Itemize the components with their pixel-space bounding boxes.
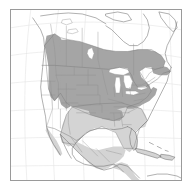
range-map-figure xyxy=(0,0,192,196)
lake-michigan xyxy=(115,77,121,93)
map-frame xyxy=(10,9,182,181)
map-canvas xyxy=(11,10,181,180)
